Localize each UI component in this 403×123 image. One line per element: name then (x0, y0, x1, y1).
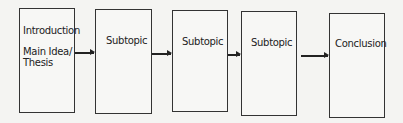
arrow-3 (228, 54, 240, 56)
subtopic-1-label: Subtopic (106, 35, 147, 46)
arrow-4 (301, 55, 328, 57)
thesis-label: Thesis (23, 57, 53, 68)
conclusion-label: Conclusion (335, 38, 387, 49)
subtopic-2-label: Subtopic (182, 36, 223, 47)
introduction-box: Introduction Main Idea/ Thesis (19, 8, 75, 113)
conclusion-box: Conclusion (329, 13, 385, 118)
main-idea-label: Main Idea/ (23, 46, 72, 57)
subtopic-box-1: Subtopic (95, 9, 152, 114)
arrow-2 (152, 53, 171, 55)
arrow-1 (75, 52, 94, 54)
subtopic-box-2: Subtopic (172, 10, 228, 112)
subtopic-3-label: Subtopic (251, 37, 292, 48)
introduction-label: Introduction (23, 25, 80, 36)
subtopic-box-3: Subtopic (241, 11, 297, 116)
